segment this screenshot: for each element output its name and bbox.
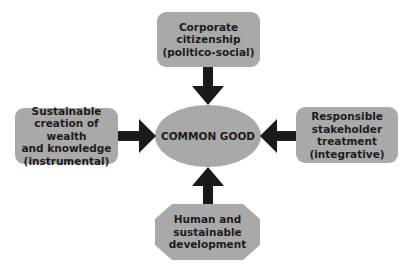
node-line: Responsible [309,110,384,123]
arrow-right-to-center [260,119,296,153]
arrow-bottom-to-center [192,167,224,204]
node-line: treatment [309,135,384,148]
node-line: Sustainable [15,105,118,118]
node-line: creation of wealth [15,117,118,142]
node-responsible-stakeholder: Responsible stakeholder treatment (integ… [296,107,398,163]
node-line: Corporate [163,21,255,34]
node-corporate-citizenship: Corporate citizenship (politico-social) [157,12,260,67]
node-line: citizenship [163,33,255,46]
node-human-development: Human and sustainable development [155,204,260,260]
node-line: Human and [169,213,247,226]
node-line: and knowledge [15,142,118,155]
node-line: stakeholder [309,123,384,136]
node-line: (integrative) [309,148,384,161]
node-line: (instrumental) [15,155,118,168]
arrow-top-to-center [192,67,224,105]
center-common-good: COMMON GOOD [155,105,261,167]
diagram-canvas: Corporate citizenship (politico-social) … [0,0,410,267]
node-line: development [169,238,247,251]
arrow-left-to-center [118,119,156,153]
center-label: COMMON GOOD [161,130,255,143]
node-line: (politico-social) [163,46,255,59]
node-line: sustainable [169,226,247,239]
node-sustainable-creation: Sustainable creation of wealth and knowl… [15,108,118,164]
